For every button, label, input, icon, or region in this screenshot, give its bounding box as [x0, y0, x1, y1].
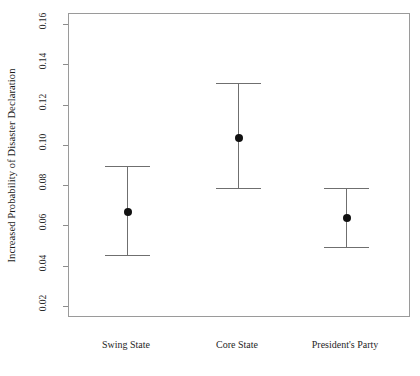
error-bar-upper-cap	[105, 166, 150, 167]
error-bar	[346, 14, 347, 316]
y-tick-label-text: 0.08	[38, 174, 48, 191]
x-tick-label: Core State	[216, 339, 258, 350]
y-tick-label: 0.16	[26, 16, 60, 26]
error-bar	[238, 14, 239, 316]
error-bar	[127, 14, 128, 316]
y-tick-label: 0.14	[26, 56, 60, 66]
error-bar-upper-cap	[324, 188, 369, 189]
y-tick-label-text: 0.12	[38, 93, 48, 110]
error-bar-lower-cap	[105, 255, 150, 256]
y-tick-label-text: 0.14	[38, 53, 48, 70]
y-tick-label: 0.06	[26, 217, 60, 227]
data-point	[124, 208, 132, 216]
data-point	[343, 214, 351, 222]
y-tick-label: 0.08	[26, 177, 60, 187]
y-tick-label-text: 0.04	[38, 254, 48, 271]
y-tick-label-text: 0.10	[38, 134, 48, 151]
y-tick-label: 0.04	[26, 258, 60, 268]
y-tick-label-text: 0.16	[38, 13, 48, 30]
data-point	[235, 134, 243, 142]
error-bar-upper-cap	[216, 83, 261, 84]
y-tick-label-text: 0.02	[38, 295, 48, 312]
chart-figure: Increased Probability of Disaster Declar…	[0, 0, 420, 376]
plot-area	[68, 13, 410, 317]
y-tick-label: 0.02	[26, 298, 60, 308]
y-tick-label-text: 0.06	[38, 214, 48, 231]
error-bar-lower-cap	[216, 188, 261, 189]
x-tick-label: President's Party	[312, 339, 379, 350]
y-tick-label: 0.12	[26, 97, 60, 107]
error-bar-lower-cap	[324, 247, 369, 248]
x-tick-label: Swing State	[102, 339, 150, 350]
y-axis-title-text: Increased Probability of Disaster Declar…	[6, 68, 17, 262]
y-tick-label: 0.10	[26, 137, 60, 147]
y-axis-title: Increased Probability of Disaster Declar…	[0, 0, 22, 330]
